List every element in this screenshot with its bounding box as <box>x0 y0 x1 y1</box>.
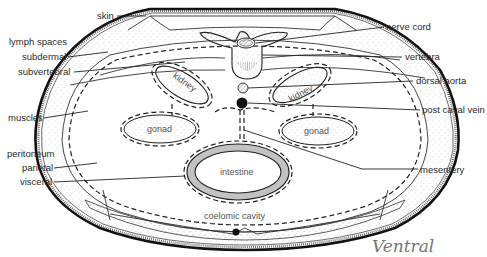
label-skin: skin <box>97 10 114 21</box>
label-parietal: parietal <box>22 162 53 173</box>
label-lymph-spaces: lymph spaces <box>9 36 67 47</box>
label-post-caval-vein: post caval vein <box>422 104 485 115</box>
intestine-label: intestine <box>220 167 254 177</box>
label-dorsal-aorta: dorsal aorta <box>416 75 467 86</box>
ventral-vessel <box>233 229 240 236</box>
gonad-left-label: gonad <box>147 124 172 134</box>
gonad-left: gonad <box>121 112 199 146</box>
intestine: intestine <box>184 141 292 203</box>
label-subdermal: subdermal <box>22 51 66 62</box>
dorsal-aorta <box>238 83 248 93</box>
label-mesentery: mesentery <box>420 164 465 175</box>
label-muscles: muscles <box>8 112 43 123</box>
post-caval-vein <box>237 98 248 109</box>
label-visceral: visceral <box>20 176 52 187</box>
coelomic-cavity-label: coelomic cavity <box>204 211 266 221</box>
label-subvertebral: subvertebral <box>18 66 70 77</box>
coelom-cross-section-diagram: kidney kidney gonad gonad intestine <box>0 0 487 257</box>
label-nerve-cord: nerve cord <box>386 21 431 32</box>
handwritten-ventral-note: Ventral <box>372 236 434 256</box>
gonad-right: gonad <box>279 114 357 148</box>
label-peritoneum: peritoneum <box>7 148 55 159</box>
gonad-right-label: gonad <box>304 126 329 136</box>
label-vertebra: vertebra <box>405 51 441 62</box>
